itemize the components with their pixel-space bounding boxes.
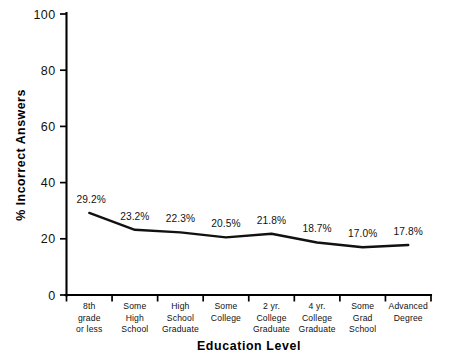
x-category-label-1-line-1: High (126, 313, 144, 323)
y-axis-title: % Incorrect Answers (14, 89, 28, 221)
x-category-label-0-line-0: 8th (83, 301, 95, 311)
x-category-label-5-line-1: College (302, 313, 332, 323)
y-tick-label-80: 80 (41, 64, 56, 78)
y-axis-tick-labels: 020406080100 (33, 8, 55, 303)
y-tick-label-20: 20 (41, 232, 56, 246)
y-tick-label-0: 0 (48, 289, 55, 303)
y-tick-label-100: 100 (33, 8, 55, 22)
x-category-label-4-line-1: College (256, 313, 286, 323)
data-point-label-4: 21.8% (257, 215, 286, 226)
x-category-label-7-line-0: Advanced (389, 301, 428, 311)
data-point-label-5: 18.7% (302, 223, 331, 234)
y-tick-label-60: 60 (41, 120, 56, 134)
x-category-label-0-line-1: grade (78, 313, 101, 323)
x-category-label-1-line-2: School (121, 324, 148, 334)
x-category-label-4-line-2: Graduate (253, 324, 290, 334)
x-category-label-4-line-0: 2 yr. (263, 301, 280, 311)
data-point-label-7: 17.8% (394, 226, 423, 237)
x-category-label-6-line-1: Grad (353, 313, 373, 323)
y-tick-label-40: 40 (41, 176, 56, 190)
x-axis-title: Education Level (197, 339, 301, 353)
x-category-label-2-line-2: Graduate (162, 324, 199, 334)
x-category-label-3-line-0: Some (214, 301, 237, 311)
line-chart: 020406080100 29.2%23.2%22.3%20.5%21.8%18… (0, 0, 452, 359)
x-category-label-6-line-0: Some (351, 301, 374, 311)
data-point-label-3: 20.5% (211, 218, 240, 229)
x-axis-category-labels: 8thgradeor lessSomeHighSchoolHighSchoolG… (76, 301, 428, 334)
data-point-label-2: 22.3% (166, 213, 195, 224)
x-category-label-2-line-1: School (167, 313, 194, 323)
x-category-label-2-line-0: High (171, 301, 189, 311)
x-category-label-7-line-1: Degree (394, 313, 423, 323)
data-point-labels: 29.2%23.2%22.3%20.5%21.8%18.7%17.0%17.8% (77, 194, 423, 239)
data-point-label-0: 29.2% (77, 194, 106, 205)
x-category-label-6-line-2: School (349, 324, 376, 334)
x-category-label-3-line-1: College (211, 313, 241, 323)
x-category-label-5-line-2: Graduate (299, 324, 336, 334)
x-category-label-5-line-0: 4 yr. (309, 301, 326, 311)
data-point-label-1: 23.2% (120, 211, 149, 222)
chart-container: 020406080100 29.2%23.2%22.3%20.5%21.8%18… (0, 0, 452, 359)
x-category-label-1-line-0: Some (123, 301, 146, 311)
x-category-label-0-line-2: or less (76, 324, 102, 334)
data-point-label-6: 17.0% (348, 228, 377, 239)
